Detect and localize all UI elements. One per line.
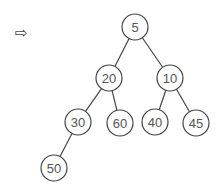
node-label: 50 [47, 161, 61, 176]
tree-node-30: 30 [65, 109, 91, 135]
tree-node-50: 50 [41, 155, 67, 181]
tree-node-5: 5 [122, 14, 148, 40]
tree-node-45: 45 [183, 110, 209, 136]
tree-node-60: 60 [107, 110, 133, 136]
tree-edge [159, 90, 166, 109]
node-label: 30 [71, 115, 85, 130]
tree-edge [177, 89, 190, 111]
tree-node-20: 20 [96, 65, 122, 91]
node-label: 10 [163, 71, 177, 86]
tree-edge [142, 38, 162, 68]
tree-edge [112, 91, 117, 111]
node-label: 45 [189, 116, 203, 131]
node-label: 60 [113, 116, 127, 131]
diagram-canvas: ⇨ 520103060404550 [0, 0, 222, 194]
node-label: 20 [102, 71, 116, 86]
tree-edge [85, 89, 101, 112]
binary-tree: 520103060404550 [0, 0, 222, 194]
tree-edge [115, 39, 129, 67]
node-label: 40 [148, 115, 162, 130]
node-label: 5 [131, 20, 138, 35]
tree-node-40: 40 [142, 109, 168, 135]
tree-node-10: 10 [157, 65, 183, 91]
tree-edge [60, 134, 72, 157]
